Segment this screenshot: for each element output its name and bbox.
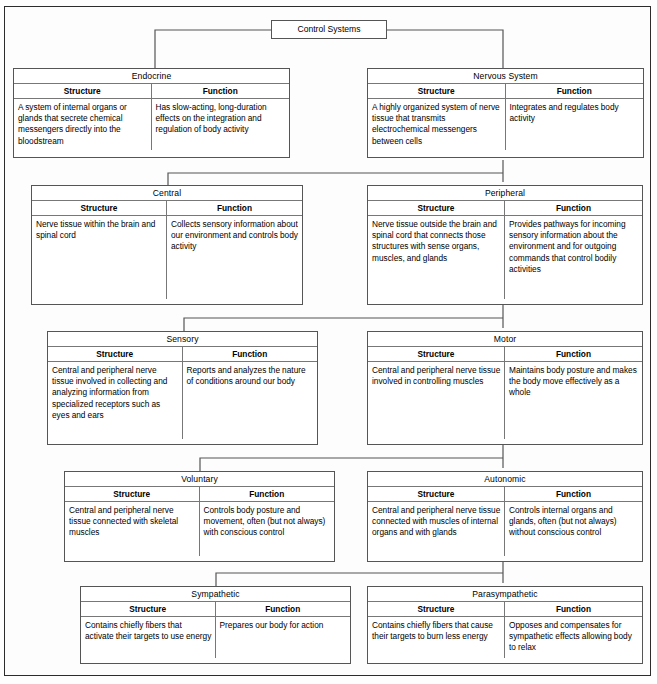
column-header-function: Function <box>505 602 642 617</box>
node-endocrine-function-text: Has slow-acting, long-duration effects o… <box>152 99 290 139</box>
node-parasympathetic-function-column: Function Opposes and compensates for sym… <box>505 602 642 658</box>
node-endocrine-function-column: Function Has slow-acting, long-duration … <box>152 84 290 150</box>
node-sensory-function-text: Reports and analyzes the nature of condi… <box>183 362 318 390</box>
column-header-structure: Structure <box>368 201 504 216</box>
column-header-structure: Structure <box>65 487 199 502</box>
node-title-peripheral: Peripheral <box>368 186 642 201</box>
node-central[interactable]: Central Structure Nerve tissue within th… <box>31 185 303 305</box>
node-motor[interactable]: Motor Structure Central and peripheral n… <box>367 331 643 445</box>
node-sympathetic-structure-column: Structure Contains chiefly fibers that a… <box>81 602 216 658</box>
node-central-function-column: Function Collects sensory information ab… <box>167 201 302 299</box>
column-header-function: Function <box>505 201 642 216</box>
node-voluntary-function-column: Function Controls body posture and movem… <box>200 487 335 556</box>
node-motor-function-text: Maintains body posture and makes the bod… <box>505 362 642 402</box>
node-motor-structure-column: Structure Central and peripheral nerve t… <box>368 347 505 439</box>
node-motor-structure-text: Central and peripheral nerve tissue invo… <box>368 362 504 390</box>
node-peripheral-structure-text: Nerve tissue outside the brain and spina… <box>368 216 504 267</box>
column-header-structure: Structure <box>14 84 151 99</box>
column-header-function: Function <box>152 84 290 99</box>
column-header-function: Function <box>505 487 642 502</box>
node-autonomic-function-column: Function Controls internal organs and gl… <box>505 487 642 556</box>
column-header-structure: Structure <box>48 347 182 362</box>
node-sensory[interactable]: Sensory Structure Central and peripheral… <box>47 331 318 445</box>
node-central-structure-column: Structure Nerve tissue within the brain … <box>32 201 167 299</box>
node-title-sensory: Sensory <box>48 332 317 347</box>
column-header-structure: Structure <box>81 602 215 617</box>
column-header-structure: Structure <box>368 487 504 502</box>
node-title-parasympathetic: Parasympathetic <box>368 587 642 602</box>
column-header-function: Function <box>183 347 318 362</box>
node-parasympathetic-structure-text: Contains chiefly fibers that cause their… <box>368 617 504 645</box>
node-nervous-system-function-column: Function Integrates and regulates body a… <box>506 84 644 150</box>
node-title-motor: Motor <box>368 332 642 347</box>
node-parasympathetic-structure-column: Structure Contains chiefly fibers that c… <box>368 602 505 658</box>
node-voluntary-function-text: Controls body posture and movement, ofte… <box>200 502 335 542</box>
column-header-function: Function <box>506 84 644 99</box>
node-parasympathetic-function-text: Opposes and compensates for sympathetic … <box>505 617 642 657</box>
node-sensory-structure-text: Central and peripheral nerve tissue invo… <box>48 362 182 424</box>
node-autonomic-function-text: Controls internal organs and glands, oft… <box>505 502 642 542</box>
node-control-systems[interactable]: Control Systems <box>271 20 387 39</box>
column-header-structure: Structure <box>32 201 166 216</box>
node-autonomic-structure-column: Structure Central and peripheral nerve t… <box>368 487 505 556</box>
node-endocrine-structure-column: Structure A system of internal organs or… <box>14 84 152 150</box>
node-autonomic[interactable]: Autonomic Structure Central and peripher… <box>367 471 643 562</box>
node-voluntary-structure-text: Central and peripheral nerve tissue conn… <box>65 502 199 542</box>
column-header-structure: Structure <box>368 347 504 362</box>
column-header-function: Function <box>216 602 351 617</box>
node-title-autonomic: Autonomic <box>368 472 642 487</box>
node-autonomic-structure-text: Central and peripheral nerve tissue conn… <box>368 502 504 542</box>
node-title-sympathetic: Sympathetic <box>81 587 350 602</box>
node-sympathetic[interactable]: Sympathetic Structure Contains chiefly f… <box>80 586 351 664</box>
node-nervous-system-structure-column: Structure A highly organized system of n… <box>368 84 506 150</box>
node-central-structure-text: Nerve tissue within the brain and spinal… <box>32 216 166 244</box>
node-title-nervous-system: Nervous System <box>368 69 643 84</box>
column-header-function: Function <box>167 201 302 216</box>
node-sympathetic-structure-text: Contains chiefly fibers that activate th… <box>81 617 215 645</box>
node-peripheral-structure-column: Structure Nerve tissue outside the brain… <box>368 201 505 299</box>
column-header-function: Function <box>505 347 642 362</box>
node-motor-function-column: Function Maintains body posture and make… <box>505 347 642 439</box>
node-central-function-text: Collects sensory information about our e… <box>167 216 302 256</box>
node-peripheral-function-text: Provides pathways for incoming sensory i… <box>505 216 642 278</box>
node-sympathetic-function-text: Prepares our body for action <box>216 617 351 634</box>
node-title-central: Central <box>32 186 302 201</box>
column-header-structure: Structure <box>368 84 505 99</box>
column-header-function: Function <box>200 487 335 502</box>
node-title-endocrine: Endocrine <box>14 69 289 84</box>
node-parasympathetic[interactable]: Parasympathetic Structure Contains chief… <box>367 586 643 664</box>
node-endocrine[interactable]: Endocrine Structure A system of internal… <box>13 68 290 158</box>
node-voluntary-structure-column: Structure Central and peripheral nerve t… <box>65 487 200 556</box>
node-nervous-system-structure-text: A highly organized system of nerve tissu… <box>368 99 505 150</box>
node-sensory-function-column: Function Reports and analyzes the nature… <box>183 347 318 439</box>
diagram-canvas: Control Systems Endocrine Structure A sy… <box>0 0 657 684</box>
node-endocrine-structure-text: A system of internal organs or glands th… <box>14 99 151 150</box>
node-peripheral[interactable]: Peripheral Structure Nerve tissue outsid… <box>367 185 643 305</box>
column-header-structure: Structure <box>368 602 504 617</box>
node-sensory-structure-column: Structure Central and peripheral nerve t… <box>48 347 183 439</box>
node-title-voluntary: Voluntary <box>65 472 334 487</box>
node-nervous-system[interactable]: Nervous System Structure A highly organi… <box>367 68 644 158</box>
node-title-root: Control Systems <box>297 24 360 34</box>
node-sympathetic-function-column: Function Prepares our body for action <box>216 602 351 658</box>
node-voluntary[interactable]: Voluntary Structure Central and peripher… <box>64 471 335 562</box>
node-peripheral-function-column: Function Provides pathways for incoming … <box>505 201 642 299</box>
node-nervous-system-function-text: Integrates and regulates body activity <box>506 99 644 127</box>
